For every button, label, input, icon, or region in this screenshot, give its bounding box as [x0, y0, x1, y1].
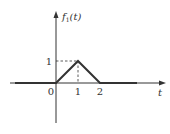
signal-f1: [15, 61, 137, 83]
y-axis-label-arg: (t): [70, 11, 82, 22]
y-axis-label: f1(t): [61, 11, 81, 23]
x-axis-label: t: [158, 87, 163, 98]
y-tick-1: 1: [46, 56, 52, 67]
x-tick-0: 0: [48, 86, 54, 97]
triangle-pulse-diagram: 0 1 2 1 t f1(t): [0, 0, 170, 134]
x-tick-2: 2: [97, 86, 103, 97]
x-tick-1: 1: [75, 86, 81, 97]
y-axis-arrow-icon: [54, 11, 59, 18]
x-axis-arrow-icon: [159, 81, 166, 86]
